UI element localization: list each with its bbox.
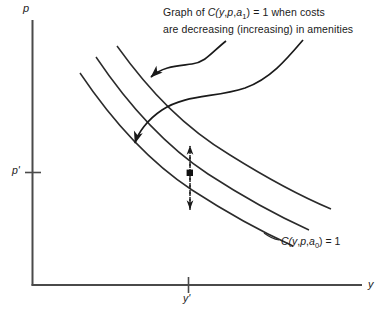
lowest-curve-label: C(y,p,a0) = 1 xyxy=(281,235,340,250)
top-annotation-line-2: are decreasing (increasing) in amenities xyxy=(163,23,389,36)
figure-canvas xyxy=(0,0,391,316)
y-axis-label: p xyxy=(23,2,29,14)
top-annotation-line-1: Graph of C(y,p,a1) = 1 when costs xyxy=(163,6,389,23)
x-axis-tick-label-yprime: y' xyxy=(183,292,190,304)
top-annotation: Graph of C(y,p,a1) = 1 when costs are de… xyxy=(163,6,389,36)
x-axis-label: y xyxy=(368,278,374,290)
annotation-arrow-right xyxy=(135,40,303,143)
isocost-curves xyxy=(80,46,331,246)
isocost-curve-figure: Graph of C(y,p,a1) = 1 when costs are de… xyxy=(0,0,391,316)
y-axis-tick-label-pprime: p' xyxy=(12,164,20,176)
annotation-arrow-left xyxy=(151,41,226,77)
curve-middle xyxy=(96,57,309,230)
reference-point-marker xyxy=(187,170,193,176)
